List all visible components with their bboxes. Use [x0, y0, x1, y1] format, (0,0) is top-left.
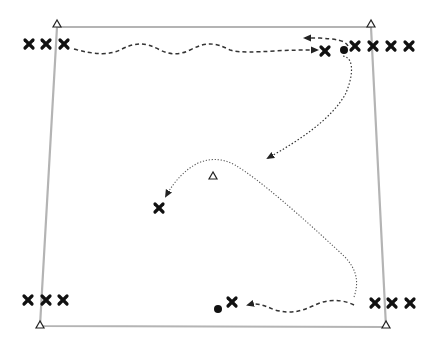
run-path	[166, 159, 357, 297]
ball-icon	[340, 46, 348, 54]
player-x-icon	[351, 42, 359, 50]
player-x-icon	[155, 204, 163, 212]
players	[24, 40, 414, 307]
player-x-icon	[24, 296, 32, 304]
player-x-icon	[228, 298, 236, 306]
player-x-icon	[25, 40, 33, 48]
player-x-icon	[42, 296, 50, 304]
player-x-icon	[387, 42, 395, 50]
cone-icon	[36, 321, 44, 328]
diagram-canvas	[0, 0, 436, 349]
player-x-icon	[321, 47, 329, 55]
bottom-dribble-path	[248, 300, 354, 312]
dribble-path	[74, 44, 317, 54]
player-x-icon	[406, 299, 414, 307]
player-x-icon	[60, 40, 68, 48]
ball-icon	[214, 305, 222, 313]
cones	[36, 20, 390, 328]
cone-icon	[53, 20, 61, 27]
player-x-icon	[59, 296, 67, 304]
dribble-return-path	[305, 38, 348, 46]
player-x-icon	[42, 40, 50, 48]
cone-icon	[209, 172, 217, 179]
cone-icon	[382, 321, 390, 328]
balls	[214, 46, 348, 313]
player-x-icon	[388, 299, 396, 307]
player-x-icon	[371, 299, 379, 307]
drill-diagram	[0, 0, 436, 349]
cone-icon	[367, 20, 375, 27]
player-x-icon	[405, 42, 413, 50]
pass-path	[268, 56, 352, 158]
